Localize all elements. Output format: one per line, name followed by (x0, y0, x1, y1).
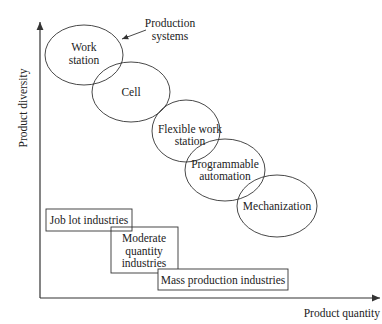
svg-text:Mass production industries: Mass production industries (161, 274, 286, 287)
ellipse-programmable-automation: Programmable automation (185, 139, 265, 201)
y-axis-label: Product diversity (17, 68, 30, 147)
svg-text:automation: automation (199, 170, 251, 182)
production-systems-diagram: Product diversity Product quantity Produ… (0, 0, 382, 324)
box-mass-production-industries: Mass production industries (158, 269, 288, 290)
svg-text:industries: industries (122, 257, 167, 269)
ellipse-mechanization: Mechanization (237, 175, 317, 237)
svg-text:Cell: Cell (121, 86, 140, 98)
svg-text:Job lot industries: Job lot industries (50, 214, 129, 226)
annotation-label: systems (152, 30, 189, 43)
svg-text:station: station (69, 54, 100, 66)
ellipse-work-station: Work station (45, 25, 123, 85)
box-moderate-quantity-industries: Moderate quantity industries (111, 227, 178, 273)
box-job-lot-industries: Job lot industries (46, 209, 132, 231)
annotation-arrow (122, 30, 146, 39)
x-axis-label: Product quantity (304, 307, 381, 320)
annotation-label: Production (145, 17, 196, 29)
svg-text:Mechanization: Mechanization (243, 200, 312, 212)
svg-text:Moderate: Moderate (122, 232, 166, 244)
svg-text:Work: Work (71, 41, 97, 53)
svg-text:Flexible work: Flexible work (158, 123, 222, 135)
